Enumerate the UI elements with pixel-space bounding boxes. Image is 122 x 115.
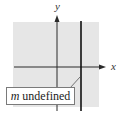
x-axis-label: x — [111, 61, 116, 72]
slope-annotation-text: undefined — [19, 89, 70, 103]
x-axis-arrow-icon — [99, 65, 106, 70]
y-axis-label: y — [55, 1, 60, 12]
y-axis-arrow-icon — [55, 15, 60, 22]
slope-annotation-box: m undefined — [6, 87, 75, 105]
